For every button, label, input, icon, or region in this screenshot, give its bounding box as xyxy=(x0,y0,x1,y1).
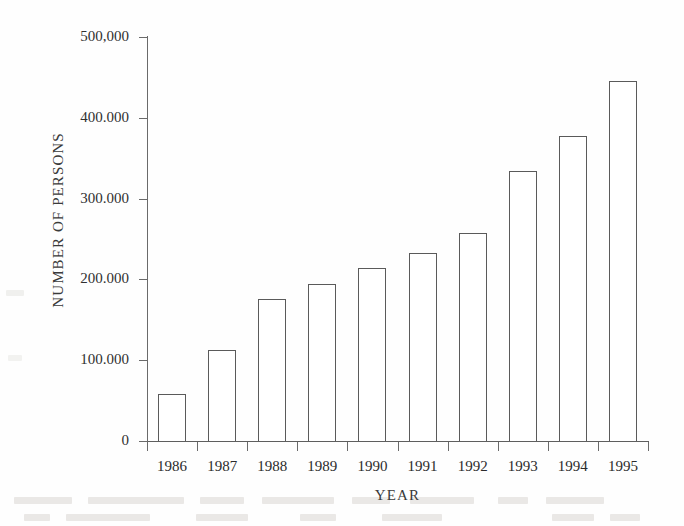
x-axis-tick-mark xyxy=(347,442,348,451)
y-axis-tick-label: 0 xyxy=(37,433,129,448)
bar-1988 xyxy=(258,299,286,441)
bar-1989 xyxy=(308,284,336,441)
y-axis-tick-label-text: 0 xyxy=(37,433,129,448)
bar-1986 xyxy=(158,394,186,441)
x-axis-tick-mark xyxy=(398,442,399,451)
bar-1987 xyxy=(208,350,236,441)
y-axis-tick-label: 200.000 xyxy=(37,271,129,286)
y-axis-tick-label: 300.000 xyxy=(37,191,129,206)
x-axis-tick-mark xyxy=(247,442,248,451)
x-axis-tick-mark xyxy=(498,442,499,451)
bar-1993 xyxy=(509,171,537,441)
x-axis-tick-mark xyxy=(648,442,649,451)
x-axis-tick-mark xyxy=(448,442,449,451)
bar-1991 xyxy=(409,253,437,441)
y-axis-tick-label: 500,000 xyxy=(37,29,129,44)
y-axis-tick-label: 100.000 xyxy=(37,352,129,367)
x-axis-tick-mark xyxy=(147,442,148,451)
bar-chart-figure: NUMBER OF PERSONS 0100.000200.000300.000… xyxy=(0,0,684,526)
plot-area xyxy=(147,37,648,441)
x-axis-title: YEAR xyxy=(147,487,648,504)
y-axis-tick-label-text: 400.000 xyxy=(37,110,129,125)
bar-1990 xyxy=(358,268,386,441)
x-axis-tick-mark xyxy=(598,442,599,451)
y-axis-tick-label: 400.000 xyxy=(37,110,129,125)
x-axis-tick-mark xyxy=(297,442,298,451)
bar-1994 xyxy=(559,136,587,441)
y-axis-tick-label-text: 100.000 xyxy=(37,352,129,367)
x-axis-tick-mark xyxy=(548,442,549,451)
y-axis-tick-label-text: 500,000 xyxy=(37,29,129,44)
bar-1995 xyxy=(609,81,637,441)
x-axis-tick-label-1995: 1995 xyxy=(593,457,653,475)
y-axis-tick-label-text: 200.000 xyxy=(37,271,129,286)
y-axis-tick-label-text: 300.000 xyxy=(37,191,129,206)
bar-1992 xyxy=(459,233,487,441)
x-axis-tick-mark xyxy=(197,442,198,451)
